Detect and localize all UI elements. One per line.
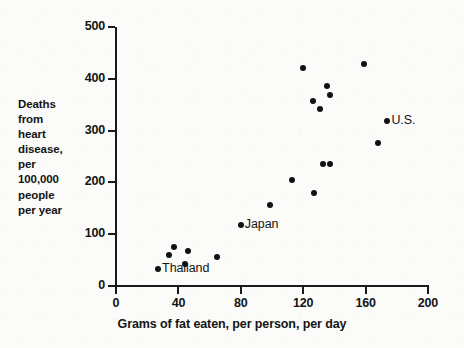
- data-point: [317, 106, 323, 112]
- x-tick-label: 120: [280, 296, 326, 310]
- x-tick-label: 160: [343, 296, 389, 310]
- data-point: [375, 140, 381, 146]
- data-point: [182, 261, 188, 267]
- data-point: [238, 222, 244, 228]
- y-axis-tick: [108, 78, 115, 80]
- data-point: [267, 202, 273, 208]
- y-tick-label: 300: [65, 123, 105, 137]
- y-axis-tick: [108, 26, 115, 28]
- y-axis-tick: [108, 130, 115, 132]
- data-point: [327, 92, 333, 98]
- data-point: [310, 98, 316, 104]
- data-point: [166, 252, 172, 258]
- data-point: [185, 248, 191, 254]
- x-tick-label: 200: [405, 296, 451, 310]
- x-tick-label: 40: [155, 296, 201, 310]
- x-axis-tick: [365, 287, 367, 294]
- data-point: [327, 161, 333, 167]
- data-point: [320, 161, 326, 167]
- y-axis-line: [115, 27, 117, 287]
- data-point: [361, 61, 367, 67]
- x-axis-tick: [302, 287, 304, 294]
- x-tick-label: 0: [93, 296, 139, 310]
- data-point: [324, 83, 330, 89]
- data-point: [300, 65, 306, 71]
- y-tick-label: 400: [65, 71, 105, 85]
- y-axis-tick: [108, 285, 115, 287]
- y-tick-label: 200: [65, 174, 105, 188]
- data-point-label: U.S.: [391, 113, 415, 127]
- data-point-label: Japan: [245, 217, 279, 231]
- x-axis-tick: [177, 287, 179, 294]
- y-tick-label: 500: [65, 19, 105, 33]
- data-point: [289, 177, 295, 183]
- x-axis-tick: [115, 287, 117, 294]
- scatter-chart: Deathsfromheartdisease,per100,000peoplep…: [0, 0, 464, 348]
- x-axis-title: Grams of fat eaten, per person, per day: [0, 317, 464, 331]
- data-point: [311, 190, 317, 196]
- x-axis-tick: [427, 287, 429, 294]
- data-point: [171, 244, 177, 250]
- data-point: [155, 266, 161, 272]
- x-tick-label: 80: [218, 296, 264, 310]
- y-axis-tick: [108, 233, 115, 235]
- y-axis-tick: [108, 181, 115, 183]
- data-point: [214, 254, 220, 260]
- y-tick-label: 100: [65, 226, 105, 240]
- x-axis-line: [115, 285, 429, 287]
- data-point: [384, 118, 390, 124]
- x-axis-tick: [240, 287, 242, 294]
- y-tick-label: 0: [65, 278, 105, 292]
